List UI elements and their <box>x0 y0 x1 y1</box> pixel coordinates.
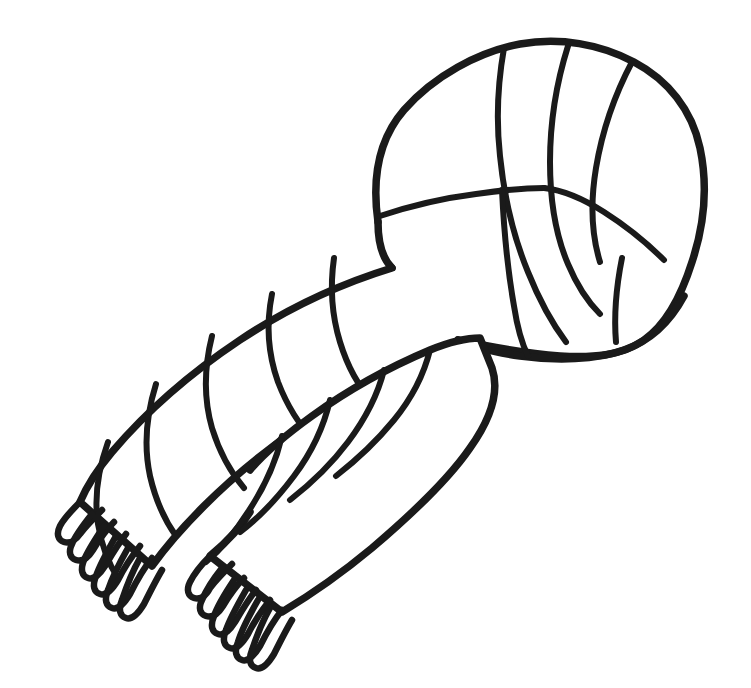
scarf-drawing <box>0 0 751 688</box>
artwork-canvas: Scarf <box>0 0 751 688</box>
